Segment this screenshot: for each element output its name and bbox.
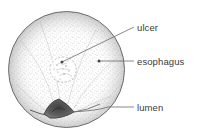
scope-field [6, 9, 128, 131]
label-esophagus: esophagus [137, 56, 185, 67]
mucosa-texture [6, 9, 128, 131]
esophagus-leader-dot [98, 60, 101, 63]
esophagus-endoscopy-figure: ulcer esophagus lumen [0, 0, 197, 139]
ulcer-leader-dot [61, 61, 64, 64]
figure-canvas: ulcer esophagus lumen [0, 0, 197, 139]
label-lumen: lumen [137, 102, 163, 113]
label-ulcer: ulcer [137, 22, 158, 33]
